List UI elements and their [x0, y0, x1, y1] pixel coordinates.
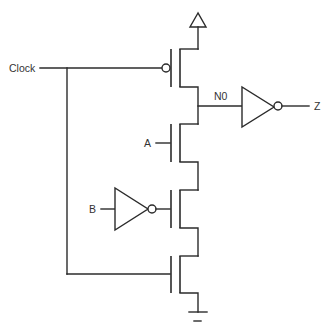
input-a-label: A	[144, 137, 151, 149]
vdd-supply-icon	[190, 13, 206, 49]
clock-label: Clock	[9, 62, 36, 74]
input-b-label: B	[89, 203, 96, 215]
inverter-bubble-icon	[274, 102, 282, 110]
pmos-gate-bubble-icon	[162, 64, 170, 72]
b-inverter-bubble-icon	[148, 205, 156, 213]
output-inverter	[242, 87, 309, 127]
nmos-a-transistor	[156, 124, 198, 190]
nmos-b-transistor	[171, 190, 198, 256]
nmos-clock-transistor	[171, 256, 198, 312]
output-z-label: Z	[314, 100, 321, 112]
input-b-inverter	[101, 188, 170, 230]
circuit-schematic: Clock N0 Z A B	[0, 0, 330, 333]
ground-icon	[189, 312, 207, 321]
node-n0-label: N0	[214, 90, 228, 102]
clock-wire	[40, 68, 170, 274]
pmos-precharge-transistor	[162, 49, 198, 124]
